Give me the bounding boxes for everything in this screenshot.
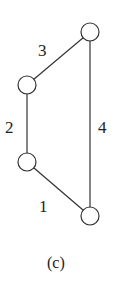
edge-label-1: 1	[39, 197, 48, 216]
node-lower-left	[18, 153, 36, 171]
edge-label-4: 4	[98, 118, 107, 137]
edge-3	[27, 32, 90, 85]
node-bottom-right	[81, 207, 99, 225]
edge-label-2: 2	[5, 118, 14, 137]
edge-1	[27, 162, 90, 216]
node-upper-left	[18, 76, 36, 94]
node-top-right	[81, 23, 99, 41]
graph-diagram: 3 2 4 1 (c)	[0, 0, 116, 287]
edge-label-3: 3	[38, 41, 47, 60]
caption: (c)	[47, 254, 65, 272]
